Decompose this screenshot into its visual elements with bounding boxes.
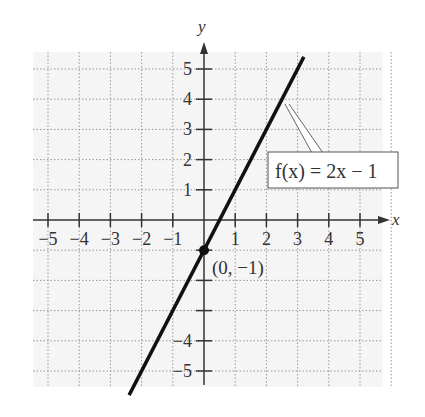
x-tick-label: −3: [101, 229, 120, 249]
x-tick-label: −5: [38, 229, 57, 249]
point-label: (0, −1): [212, 257, 264, 279]
y-axis-label: y: [196, 17, 206, 36]
y-intercept-point: [199, 245, 209, 255]
x-tick-label: 2: [262, 229, 271, 249]
x-tick-label: 3: [293, 229, 302, 249]
y-tick-label: 5: [183, 59, 192, 79]
x-tick-label: 5: [356, 229, 365, 249]
x-tick-label: −1: [163, 229, 182, 249]
x-axis-label: x: [391, 210, 400, 229]
x-tick-label: −2: [132, 229, 151, 249]
y-tick-label: −5: [173, 361, 192, 381]
y-tick-label: 2: [183, 150, 192, 170]
y-tick-label: 3: [183, 119, 192, 139]
x-tick-label: −4: [70, 229, 89, 249]
y-tick-label: −4: [173, 331, 192, 351]
x-tick-label: 4: [324, 229, 333, 249]
function-label: f(x) = 2x − 1: [275, 160, 378, 183]
x-tick-label: 1: [231, 229, 240, 249]
y-tick-label: 4: [183, 89, 192, 109]
function-graph: −5−4−3−2−11234554321−4−5 (0, −1) y x f(x…: [0, 0, 425, 417]
y-tick-label: 1: [183, 180, 192, 200]
